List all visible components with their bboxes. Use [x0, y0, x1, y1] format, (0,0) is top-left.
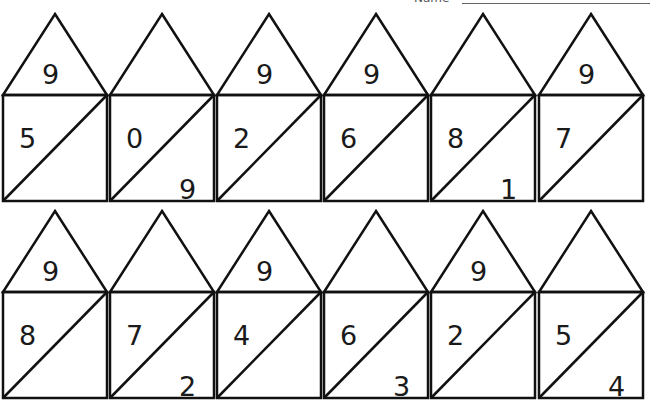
- house-outline-icon: [323, 210, 431, 400]
- number-house: 97: [538, 13, 646, 203]
- number-house: 95: [2, 13, 110, 203]
- number-house: 72: [109, 210, 217, 400]
- number-house: 98: [2, 210, 110, 400]
- house-outline-icon: [109, 210, 217, 400]
- house-outline-icon: [216, 13, 324, 203]
- top-number[interactable]: 5: [555, 322, 572, 349]
- number-house: 63: [323, 210, 431, 400]
- bottom-number[interactable]: 2: [179, 373, 196, 400]
- house-outline-icon: [2, 210, 110, 400]
- house-outline-icon: [109, 13, 217, 203]
- roof-number[interactable]: 9: [470, 258, 487, 285]
- top-number[interactable]: 7: [126, 322, 143, 349]
- house-outline-icon: [216, 210, 324, 400]
- name-field[interactable]: [462, 3, 650, 4]
- bottom-number[interactable]: 9: [179, 176, 196, 203]
- roof-number[interactable]: 9: [578, 61, 595, 88]
- top-number[interactable]: 5: [19, 125, 36, 152]
- number-house: 92: [430, 210, 538, 400]
- top-number[interactable]: 7: [555, 125, 572, 152]
- number-house: 96: [323, 13, 431, 203]
- top-number[interactable]: 0: [126, 125, 143, 152]
- house-outline-icon: [323, 13, 431, 203]
- top-number[interactable]: 8: [447, 125, 464, 152]
- top-number[interactable]: 6: [340, 322, 357, 349]
- top-number[interactable]: 2: [233, 125, 250, 152]
- house-outline-icon: [430, 13, 538, 203]
- number-house: 81: [430, 13, 538, 203]
- top-number[interactable]: 2: [447, 322, 464, 349]
- number-house: 94: [216, 210, 324, 400]
- house-outline-icon: [2, 13, 110, 203]
- top-number[interactable]: 4: [233, 322, 250, 349]
- house-outline-icon: [430, 210, 538, 400]
- roof-number[interactable]: 9: [256, 61, 273, 88]
- roof-number[interactable]: 9: [363, 61, 380, 88]
- bottom-number[interactable]: 4: [608, 373, 625, 400]
- roof-number[interactable]: 9: [42, 258, 59, 285]
- house-outline-icon: [538, 13, 646, 203]
- name-label: Name: [414, 0, 449, 5]
- bottom-number[interactable]: 3: [393, 373, 410, 400]
- top-number[interactable]: 8: [19, 322, 36, 349]
- top-number[interactable]: 6: [340, 125, 357, 152]
- number-house: 54: [538, 210, 646, 400]
- number-house: 92: [216, 13, 324, 203]
- number-house: 09: [109, 13, 217, 203]
- bottom-number[interactable]: 1: [500, 176, 517, 203]
- house-outline-icon: [538, 210, 646, 400]
- roof-number[interactable]: 9: [256, 258, 273, 285]
- roof-number[interactable]: 9: [42, 61, 59, 88]
